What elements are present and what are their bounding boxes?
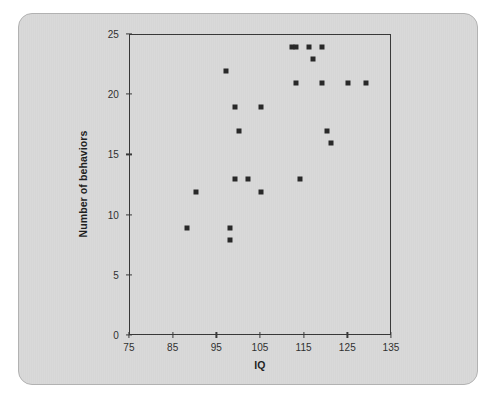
- scatter-point: [328, 141, 333, 146]
- scatter-point: [363, 81, 368, 86]
- scatter-point: [224, 69, 229, 74]
- x-tick-label: 135: [383, 342, 400, 353]
- scatter-point: [259, 105, 264, 110]
- plot-area: [129, 34, 391, 335]
- x-tick-label: 105: [252, 342, 269, 353]
- figure-card: Number of behaviors 0510152025 758595105…: [18, 13, 478, 385]
- x-axis-title: IQ: [254, 359, 265, 371]
- scatter-point: [232, 105, 237, 110]
- x-tick-label: 75: [123, 342, 134, 353]
- x-tick-label: 95: [211, 342, 222, 353]
- scatter-point: [346, 81, 351, 86]
- scatter-point: [324, 129, 329, 134]
- x-tick-label: 85: [167, 342, 178, 353]
- scatter-point: [184, 225, 189, 230]
- scatter-point: [307, 45, 312, 50]
- scatter-point: [293, 45, 298, 50]
- scatter-point: [228, 225, 233, 230]
- scatter-point: [245, 177, 250, 182]
- scatter-point: [259, 189, 264, 194]
- scatter-point: [298, 177, 303, 182]
- scatter-point: [293, 81, 298, 86]
- scatter-point: [320, 45, 325, 50]
- scatter-point: [228, 237, 233, 242]
- scatter-point: [311, 57, 316, 62]
- scatter-marker-layer: [130, 35, 390, 334]
- scatter-point: [320, 81, 325, 86]
- scatter-point: [193, 189, 198, 194]
- scatter-point: [237, 129, 242, 134]
- x-tick-label: 115: [296, 342, 312, 353]
- x-tick-label: 125: [339, 342, 356, 353]
- scatter-point: [232, 177, 237, 182]
